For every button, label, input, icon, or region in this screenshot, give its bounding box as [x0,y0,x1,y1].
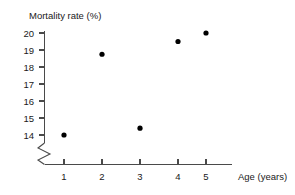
y-axis-title: Mortality rate (%) [29,10,101,21]
x-tick-label-1: 1 [61,171,66,182]
data-point [203,30,208,35]
y-axis-break-icon [38,143,50,165]
x-tick-label-3: 3 [137,171,142,182]
data-point [61,132,66,137]
x-tick-label-2: 2 [99,171,104,182]
chart-canvas: Mortality rate (%) 20 19 18 17 16 15 14 … [0,0,295,195]
x-axis-title: Age (years) [238,171,287,182]
x-tick-label-5: 5 [203,171,208,182]
y-tick-label-16: 16 [23,96,34,107]
data-point-group [61,30,208,137]
y-tick-label-17: 17 [23,79,34,90]
y-tick-label-19: 19 [23,45,34,56]
x-tick-label-4: 4 [175,171,180,182]
scatter-chart: Mortality rate (%) 20 19 18 17 16 15 14 … [0,0,295,195]
y-tick-label-15: 15 [23,113,34,124]
data-point [175,39,180,44]
y-tick-label-14: 14 [23,130,34,141]
y-tick-label-18: 18 [23,62,34,73]
data-point [99,52,104,57]
y-tick-label-20: 20 [23,28,34,39]
data-point [137,126,142,131]
